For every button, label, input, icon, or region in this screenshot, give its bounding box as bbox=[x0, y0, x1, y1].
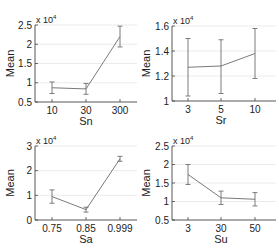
x-tick-label: 50 bbox=[249, 223, 261, 234]
y-tick-label: 1 bbox=[26, 190, 32, 201]
y-tick-label: 1.4 bbox=[155, 46, 169, 57]
y-axis-label: Mean bbox=[140, 169, 152, 197]
scale-note: x 104 bbox=[36, 135, 57, 146]
figure-grid: 0.511.522.51030300x 104SnMean 11.21.41.6… bbox=[0, 0, 279, 249]
y-tick-label: 2 bbox=[26, 39, 32, 50]
mean-line bbox=[188, 54, 255, 68]
y-tick-label: 1 bbox=[163, 96, 169, 107]
y-tick-label: 0 bbox=[26, 215, 32, 226]
y-tick-label: 1.5 bbox=[18, 58, 32, 69]
scale-note: x 104 bbox=[173, 135, 194, 146]
panel-sa: 01230.750.850.999x 104SaMean bbox=[4, 135, 137, 245]
y-tick-label: 2.5 bbox=[18, 20, 32, 31]
mean-line bbox=[52, 159, 120, 210]
y-tick-label: 0.5 bbox=[155, 215, 169, 226]
y-tick-label: 1 bbox=[26, 77, 32, 88]
y-tick-label: 1.2 bbox=[155, 71, 169, 82]
mean-line bbox=[188, 174, 255, 199]
y-axis-label: Mean bbox=[4, 50, 16, 78]
x-tick-label: 0.75 bbox=[42, 223, 62, 234]
y-tick-label: 2 bbox=[163, 159, 169, 170]
y-axis-label: Mean bbox=[140, 50, 152, 78]
x-tick-label: 300 bbox=[112, 105, 129, 116]
x-tick-label: 0.999 bbox=[107, 223, 132, 234]
y-tick-label: 1 bbox=[163, 196, 169, 207]
y-tick-label: 2 bbox=[26, 165, 32, 176]
panel-sn: 0.511.522.51030300x 104SnMean bbox=[4, 14, 137, 127]
y-axis-label: Mean bbox=[4, 169, 16, 197]
x-axis-label: Su bbox=[214, 233, 227, 245]
scale-note: x 104 bbox=[36, 14, 57, 25]
y-tick-label: 1.5 bbox=[155, 178, 169, 189]
y-tick-label: 2.5 bbox=[155, 141, 169, 152]
x-axis-label: Sr bbox=[216, 114, 227, 126]
x-tick-label: 3 bbox=[185, 223, 191, 234]
panel-su: 0.511.522.533050x 104SuMean bbox=[140, 135, 276, 245]
y-tick-label: 3 bbox=[26, 141, 32, 152]
x-tick-label: 10 bbox=[249, 104, 261, 115]
x-axis-label: Sa bbox=[79, 233, 93, 245]
y-tick-label: 0.5 bbox=[18, 97, 32, 108]
scale-note: x 104 bbox=[173, 15, 194, 26]
panel-sr: 11.21.41.63510x 104SrMean bbox=[140, 15, 276, 126]
x-axis-label: Sn bbox=[79, 115, 92, 127]
y-tick-label: 1.6 bbox=[155, 21, 169, 32]
x-tick-label: 3 bbox=[185, 104, 191, 115]
x-tick-label: 10 bbox=[46, 105, 58, 116]
